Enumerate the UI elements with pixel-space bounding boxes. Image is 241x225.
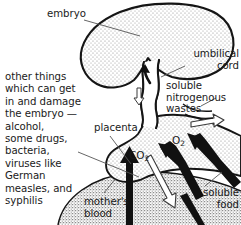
label-umbilical-cord: umbilical cord [193,48,239,71]
label-carbon-dioxide: CO2 [129,150,149,163]
co2-text: CO [129,149,145,161]
label-oxygen: O2 [172,135,185,148]
o2-text: O [172,134,180,146]
co2-subscript: 2 [145,154,150,163]
label-soluble-nitrogenous-wastes: soluble nitrogenous wastes [166,80,226,115]
label-soluble-food: soluble food [203,187,239,210]
label-placenta: placenta [94,122,138,134]
o2-subscript: 2 [180,139,185,148]
diagram-canvas: embryo other things which can get in and… [0,0,241,225]
label-other-things: other things which can get in and damage… [5,71,81,207]
label-mothers-blood: mother's blood [84,196,129,219]
label-embryo: embryo [47,8,86,20]
